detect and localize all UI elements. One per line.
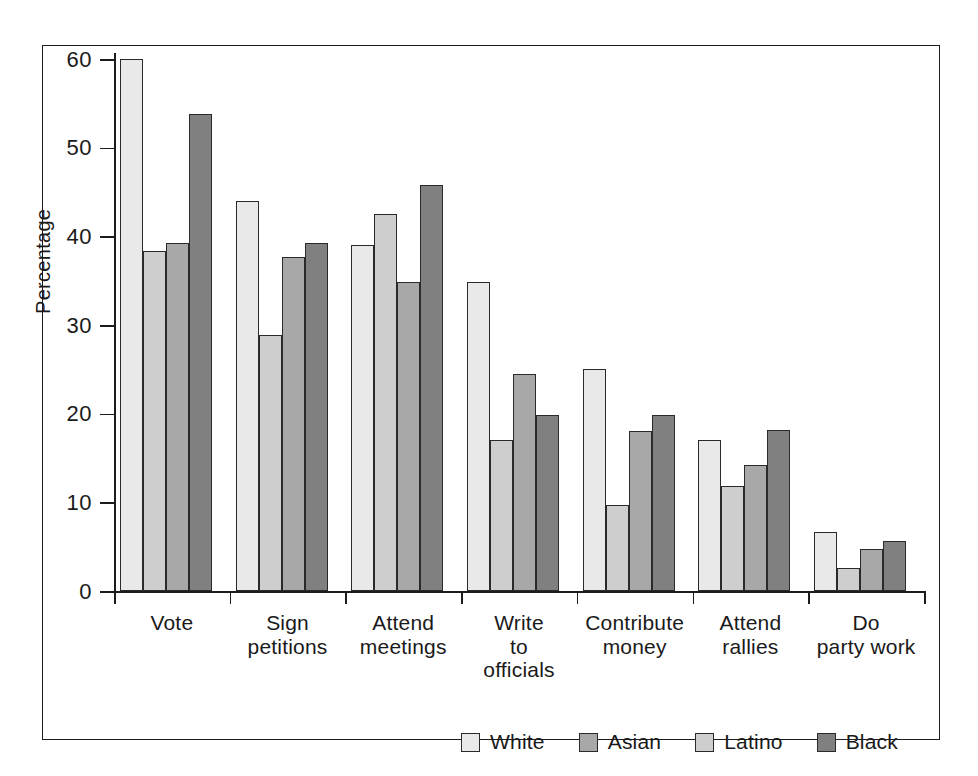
x-tick xyxy=(461,591,463,604)
category-label: Writetoofficials xyxy=(461,611,577,682)
bar xyxy=(536,415,559,591)
bar xyxy=(420,185,443,591)
bar xyxy=(767,430,790,591)
bar xyxy=(467,282,490,591)
category-label: Doparty work xyxy=(808,611,924,658)
category-label-line: Contribute xyxy=(577,611,693,635)
category-label-line: Attend xyxy=(345,611,461,635)
bar xyxy=(282,257,305,591)
bar xyxy=(814,532,837,591)
bar-group xyxy=(467,59,559,591)
category-label-line: party work xyxy=(808,635,924,659)
category-label-line: Vote xyxy=(114,611,230,635)
bar-group xyxy=(698,59,790,591)
bar xyxy=(259,335,282,591)
y-tick-label: 10 xyxy=(67,492,92,514)
y-tick: 60 xyxy=(100,59,114,61)
bar xyxy=(374,214,397,591)
legend-item: White xyxy=(461,730,545,754)
legend-label: Black xyxy=(846,730,898,754)
x-tick xyxy=(345,591,347,604)
y-tick: 0 xyxy=(100,591,114,593)
y-tick-mark xyxy=(100,591,114,593)
y-tick: 30 xyxy=(100,325,114,327)
category-label: Attendmeetings xyxy=(345,611,461,658)
bar xyxy=(143,251,166,591)
x-tick xyxy=(577,591,579,604)
y-tick-label: 30 xyxy=(67,315,92,337)
plot-area: Percentage 0102030405060 VoteSignpetitio… xyxy=(114,59,924,591)
y-tick-label: 20 xyxy=(67,403,92,425)
category-label: Contributemoney xyxy=(577,611,693,658)
x-tick xyxy=(114,591,116,604)
category-label-line: Write xyxy=(461,611,577,635)
bar xyxy=(837,568,860,591)
bar xyxy=(583,369,606,591)
bar-group xyxy=(120,59,212,591)
legend-label: White xyxy=(490,730,545,754)
x-tick xyxy=(808,591,810,604)
x-tick xyxy=(230,591,232,604)
legend-swatch xyxy=(461,733,480,752)
y-tick-label: 60 xyxy=(67,49,92,71)
bar xyxy=(189,114,212,591)
bar xyxy=(721,486,744,591)
y-tick-label: 50 xyxy=(67,137,92,159)
legend-swatch xyxy=(579,733,598,752)
bar xyxy=(629,431,652,591)
bar xyxy=(606,505,629,591)
y-tick-mark xyxy=(100,59,114,61)
category-label-line: Do xyxy=(808,611,924,635)
bar xyxy=(883,541,906,591)
bar xyxy=(652,415,675,591)
category-label: Vote xyxy=(114,611,230,635)
legend-swatch xyxy=(817,733,836,752)
bar xyxy=(513,374,536,591)
bar xyxy=(120,59,143,591)
bar xyxy=(698,440,721,591)
category-label-line: officials xyxy=(461,658,577,682)
x-tick xyxy=(924,591,926,604)
x-axis-line xyxy=(100,591,924,593)
bar xyxy=(305,243,328,591)
y-tick-mark xyxy=(100,325,114,327)
chart-figure: Percentage 0102030405060 VoteSignpetitio… xyxy=(0,0,978,776)
y-tick: 20 xyxy=(100,414,114,416)
bar-group xyxy=(351,59,443,591)
y-tick-mark xyxy=(100,236,114,238)
y-tick-label: 0 xyxy=(79,581,92,603)
category-label-line: money xyxy=(577,635,693,659)
bar xyxy=(351,245,374,591)
legend-label: Asian xyxy=(608,730,662,754)
category-label-line: to xyxy=(461,635,577,659)
bar-group xyxy=(236,59,328,591)
category-label-line: rallies xyxy=(693,635,809,659)
y-tick: 10 xyxy=(100,502,114,504)
category-label-line: meetings xyxy=(345,635,461,659)
legend-item: Latino xyxy=(695,730,782,754)
bar xyxy=(744,465,767,591)
bar xyxy=(860,549,883,591)
bar-group xyxy=(814,59,906,591)
y-axis-line xyxy=(114,53,116,591)
y-tick-label: 40 xyxy=(67,226,92,248)
category-label: Attendrallies xyxy=(693,611,809,658)
bar xyxy=(236,201,259,591)
category-label-line: petitions xyxy=(230,635,346,659)
y-axis-title: Percentage xyxy=(32,209,55,314)
y-tick: 40 xyxy=(100,236,114,238)
legend-swatch xyxy=(695,733,714,752)
category-label-line: Sign xyxy=(230,611,346,635)
bar xyxy=(490,440,513,591)
y-tick: 50 xyxy=(100,148,114,150)
category-label-line: Attend xyxy=(693,611,809,635)
y-tick-mark xyxy=(100,502,114,504)
chart-frame: Percentage 0102030405060 VoteSignpetitio… xyxy=(42,45,940,740)
bar xyxy=(166,243,189,591)
bar xyxy=(397,282,420,591)
chart-legend: WhiteAsianLatinoBlack xyxy=(461,730,898,754)
bar-group xyxy=(583,59,675,591)
legend-label: Latino xyxy=(724,730,782,754)
category-label: Signpetitions xyxy=(230,611,346,658)
legend-item: Black xyxy=(817,730,898,754)
